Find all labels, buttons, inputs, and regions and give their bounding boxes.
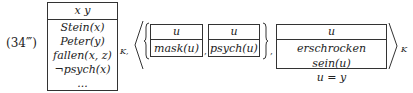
comma: , (270, 46, 273, 56)
main-drs-subscript: K, (120, 47, 129, 56)
third-drs-universe: u (277, 25, 386, 40)
third-drs-condition: u = y (277, 71, 386, 85)
set-drs-box-1: u mask(u) (150, 24, 203, 57)
main-drs-condition: fallen(x, z) (48, 49, 117, 63)
set-drs-condition: psych(u) (209, 40, 259, 57)
main-drs-universe: x y (48, 3, 117, 20)
equation-label: (34‴) (6, 36, 37, 50)
third-drs-box: u erschrocken sein(u) u = y (276, 24, 387, 69)
set-drs-universe: u (209, 25, 259, 40)
third-drs-condition: erschrocken sein(u) (277, 41, 386, 71)
set-drs-condition: mask(u) (151, 40, 202, 57)
main-drs-condition: Peter(y) (48, 35, 117, 49)
main-drs-condition: ... (48, 77, 117, 91)
main-drs-condition: Stein(x) (48, 21, 117, 35)
main-drs-condition: ¬psych(x) (48, 63, 117, 77)
right-angle-bracket-icon (388, 22, 398, 70)
left-angle-bracket-icon (134, 20, 144, 70)
main-drs-box: x y Stein(x) Peter(y) fallen(x, z) ¬psyc… (47, 2, 118, 91)
set-drs-universe: u (151, 25, 202, 40)
tuple-subscript: K (401, 45, 407, 54)
set-drs-box-2: u psych(u) (208, 24, 260, 57)
right-brace-icon (262, 22, 268, 60)
comma: , (204, 46, 207, 56)
